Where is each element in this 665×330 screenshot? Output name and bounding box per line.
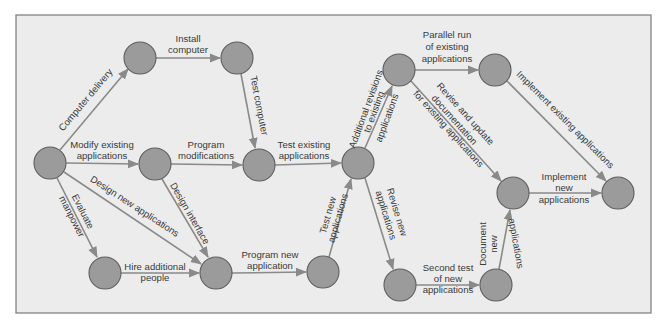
event-node-start: [34, 147, 66, 179]
label-parallel-run-1: Parallel run: [423, 29, 472, 40]
network-diagram: Computer delivery Install computer Test …: [0, 0, 665, 330]
edge-modify-existing: [66, 163, 138, 164]
event-node-hub: [342, 147, 374, 179]
label-install-computer-2: computer: [168, 44, 209, 55]
event-node: [480, 269, 512, 301]
label-parallel-run-2: of existing: [425, 41, 468, 52]
event-node: [200, 257, 232, 289]
label-parallel-run-3: applications: [422, 53, 473, 64]
event-node-end: [602, 177, 634, 209]
event-node: [221, 42, 253, 74]
label-program-new-1: Program new: [241, 249, 298, 260]
event-node: [124, 42, 156, 74]
label-implement-new-3: applications: [539, 194, 590, 205]
label-second-test-3: applications: [423, 284, 474, 295]
event-node: [384, 269, 416, 301]
label-program-modifications-1: Program: [188, 139, 225, 150]
event-node: [307, 256, 339, 288]
edge-program-new: [232, 272, 306, 273]
label-second-test-2: of new: [434, 273, 462, 284]
event-node: [383, 54, 415, 86]
event-node: [243, 149, 275, 181]
label-second-test-1: Second test: [423, 262, 474, 273]
label-program-modifications-2: modifications: [178, 150, 234, 161]
event-node: [497, 177, 529, 209]
event-node: [89, 257, 121, 289]
label-document-new-1: Document: [477, 222, 488, 266]
label-hire-additional-1: Hire additional: [124, 261, 185, 272]
label-implement-new-2: new: [555, 182, 573, 193]
label-test-existing-1: Test existing: [278, 139, 331, 150]
label-test-existing-2: applications: [279, 150, 330, 161]
label-modify-existing-1: Modify existing: [70, 139, 133, 150]
label-install-computer-1: Install: [175, 33, 200, 44]
label-program-new-2: application: [247, 260, 293, 271]
event-node: [139, 148, 171, 180]
label-implement-new-1: Implement: [542, 171, 587, 182]
label-modify-existing-2: applications: [77, 150, 128, 161]
label-document-new-2: new: [488, 235, 499, 253]
event-node: [479, 54, 511, 86]
edge-program-modifications: [171, 164, 242, 165]
label-hire-additional-2: people: [141, 272, 170, 283]
